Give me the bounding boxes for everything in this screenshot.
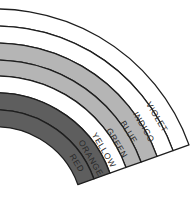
rainbow-diagram: VIOLET INDIGO BLUE GREEN YELLOW ORANGE R… (0, 0, 190, 203)
